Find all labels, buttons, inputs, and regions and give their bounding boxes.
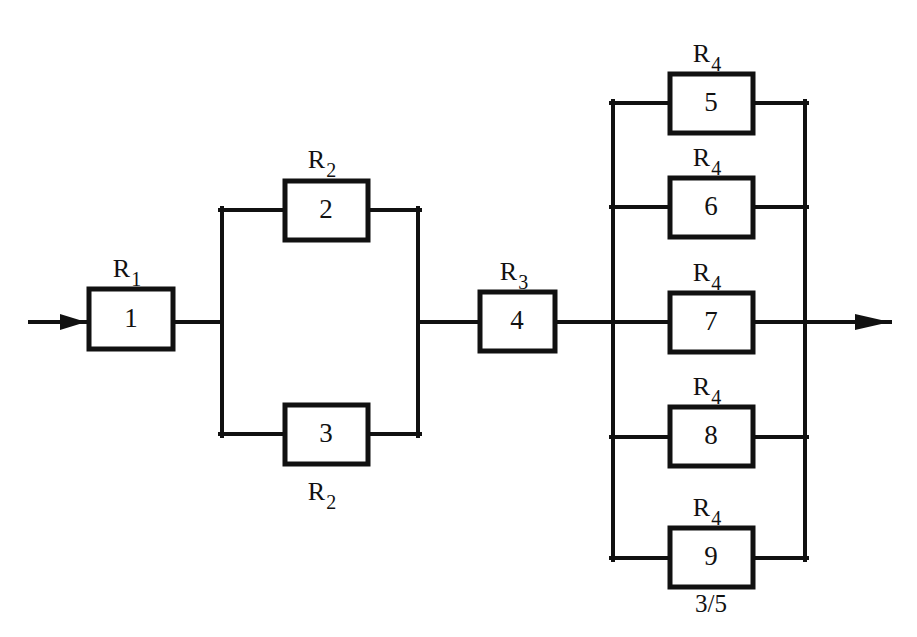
block-7-reliability-label: R4 <box>693 258 721 294</box>
block-5-reliability-label: R4 <box>693 39 721 75</box>
block-3-r-base: R <box>308 477 326 506</box>
block-8-reliability-label: R4 <box>693 372 721 408</box>
block-5-r-base: R <box>693 39 711 68</box>
reliability-block-diagram: 1 R1 2 R2 <box>0 0 917 637</box>
block-group-4: 4 R3 <box>480 257 555 351</box>
block-3-r-sub: 2 <box>326 491 336 513</box>
block-2-number: 2 <box>319 194 333 224</box>
svg-text:R2: R2 <box>308 145 336 181</box>
svg-text:R4: R4 <box>693 258 721 294</box>
block-7-number: 7 <box>704 306 718 336</box>
block-1-r-sub: 1 <box>131 268 141 290</box>
block-3-reliability-label: R2 <box>308 477 336 513</box>
block-group-3: 3 R2 <box>285 405 368 513</box>
block-3-number: 3 <box>319 418 333 448</box>
block-4-number: 4 <box>510 305 524 335</box>
block-group-1: 1 R1 <box>89 254 173 349</box>
block-5-number: 5 <box>704 87 718 117</box>
block-9-r-base: R <box>693 493 711 522</box>
block-6-r-base: R <box>693 143 711 172</box>
block-9-r-sub: 4 <box>711 507 721 529</box>
svg-text:R4: R4 <box>693 493 721 529</box>
block-2-r-base: R <box>308 145 326 174</box>
svg-text:R4: R4 <box>693 39 721 75</box>
block-1-r-base: R <box>113 254 131 283</box>
block-7-r-base: R <box>693 258 711 287</box>
block-4-reliability-label: R3 <box>500 257 528 293</box>
block-9-number: 9 <box>704 541 718 571</box>
block-6-number: 6 <box>704 191 718 221</box>
block-8-r-base: R <box>693 372 711 401</box>
svg-text:R4: R4 <box>693 372 721 408</box>
block-2-reliability-label: R2 <box>308 145 336 181</box>
block-group-7: 7 R4 <box>670 258 753 352</box>
block-group-2: 2 R2 <box>285 145 368 240</box>
diagram-canvas: 1 R1 2 R2 <box>0 0 917 637</box>
block-group-5: 5 R4 <box>670 39 753 133</box>
block-4-r-sub: 3 <box>518 271 528 293</box>
svg-text:R1: R1 <box>113 254 141 290</box>
block-1-number: 1 <box>124 303 138 333</box>
block-5-r-sub: 4 <box>711 53 721 75</box>
block-7-r-sub: 4 <box>711 272 721 294</box>
block-4-r-base: R <box>500 257 518 286</box>
block-group-9: 9 R4 <box>670 493 753 587</box>
block-group-6: 6 R4 <box>670 143 753 237</box>
block-8-number: 8 <box>704 420 718 450</box>
output-arrow <box>805 314 890 330</box>
block-6-r-sub: 4 <box>711 157 721 179</box>
svg-text:R3: R3 <box>500 257 528 293</box>
block-6-reliability-label: R4 <box>693 143 721 179</box>
svg-text:R2: R2 <box>308 477 336 513</box>
block-2-r-sub: 2 <box>326 159 336 181</box>
svg-text:R4: R4 <box>693 143 721 179</box>
block-1-reliability-label: R1 <box>113 254 141 290</box>
block-9-reliability-label: R4 <box>693 493 721 529</box>
vote-label: 3/5 <box>695 590 727 617</box>
block-group-8: 8 R4 <box>670 372 753 466</box>
block-8-r-sub: 4 <box>711 386 721 408</box>
